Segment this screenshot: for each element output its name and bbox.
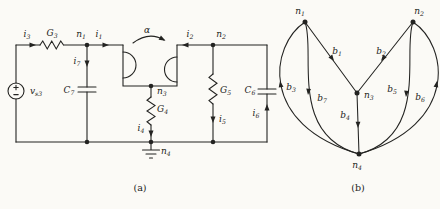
label-n1: n1 — [76, 29, 86, 40]
node-bottom-c7-dot — [85, 140, 90, 145]
circuit-a: i3 G3 n1 i1 α i2 n2 i7 C7 vs3 n3 G4 i4 G… — [8, 25, 276, 193]
label-i7: i7 — [74, 56, 81, 67]
resistor-g5 — [209, 74, 217, 104]
caption-b: (b) — [351, 182, 365, 193]
label-n3: n3 — [157, 86, 167, 97]
graph-label-b7: b7 — [317, 93, 327, 104]
label-i4: i4 — [138, 123, 145, 134]
label-g5: G5 — [220, 85, 231, 96]
branch-b4-arrow — [356, 122, 361, 128]
caption-a: (a) — [133, 182, 146, 193]
i5-arrow — [211, 117, 216, 124]
graph-label-n4: n4 — [352, 160, 362, 171]
label-g4: G4 — [157, 104, 168, 115]
i7-arrow — [85, 61, 90, 68]
label-c6: C6 — [245, 85, 256, 96]
i4-arrow — [149, 131, 154, 138]
plus-sign — [14, 85, 18, 89]
label-alpha: α — [144, 25, 150, 35]
dependent-source-left-port — [123, 52, 136, 78]
graph-label-n2: n2 — [414, 6, 424, 17]
i6-arrow — [265, 104, 270, 111]
label-n4-circuit: n4 — [161, 146, 171, 157]
node-n1-dot — [85, 43, 90, 48]
branch-b6-arrow — [434, 81, 440, 88]
label-i3: i3 — [24, 29, 31, 40]
graph-label-b3: b3 — [286, 82, 296, 93]
label-i5: i5 — [219, 114, 226, 125]
branch-b6-edge — [359, 22, 438, 154]
i2-arrow — [182, 43, 189, 48]
graph-label-b6: b6 — [415, 92, 425, 103]
branch-b5-edge — [359, 22, 413, 154]
label-vs3: vs3 — [30, 86, 42, 97]
graph-node-n4-dot — [357, 152, 362, 157]
node-n4-dot — [149, 140, 154, 145]
resistor-g4 — [147, 97, 155, 125]
graph-label-b1: b1 — [332, 46, 342, 57]
graph-label-n1: n1 — [295, 6, 305, 17]
graph-b: n1 n2 n3 n4 b1 b2 b3 b7 b4 b5 b6 (b) — [278, 6, 440, 193]
label-i2: i2 — [187, 29, 194, 40]
ground-symbol — [143, 142, 160, 158]
branch-b7-edge — [305, 22, 359, 154]
dependent-source-alpha-frame — [123, 45, 177, 86]
graph-label-b5: b5 — [387, 84, 397, 95]
label-c7: C7 — [64, 85, 75, 96]
label-i1: i1 — [96, 29, 103, 40]
i1-arrow — [103, 43, 110, 48]
capacitor-c7 — [78, 87, 96, 92]
node-bottom-g5-dot — [211, 140, 216, 145]
label-i6: i6 — [253, 108, 260, 119]
dependent-source-right-port — [165, 57, 178, 82]
resistor-g3 — [40, 41, 64, 49]
graph-label-b2: b2 — [376, 46, 386, 57]
alpha-arrow — [159, 35, 167, 42]
capacitor-c6 — [258, 89, 276, 94]
graph-label-b4: b4 — [340, 110, 350, 121]
graph-node-n3-dot — [355, 91, 360, 96]
node-n2-dot — [211, 43, 216, 48]
textbook-figure: i3 G3 n1 i1 α i2 n2 i7 C7 vs3 n3 G4 i4 G… — [0, 0, 440, 209]
label-n2: n2 — [216, 29, 226, 40]
graph-node-n2-dot — [411, 20, 416, 25]
label-g3: G3 — [46, 28, 57, 39]
graph-label-n3: n3 — [364, 90, 374, 101]
i3-arrow — [30, 43, 37, 48]
node-n3-dot — [149, 84, 154, 89]
graph-node-n1-dot — [303, 20, 308, 25]
